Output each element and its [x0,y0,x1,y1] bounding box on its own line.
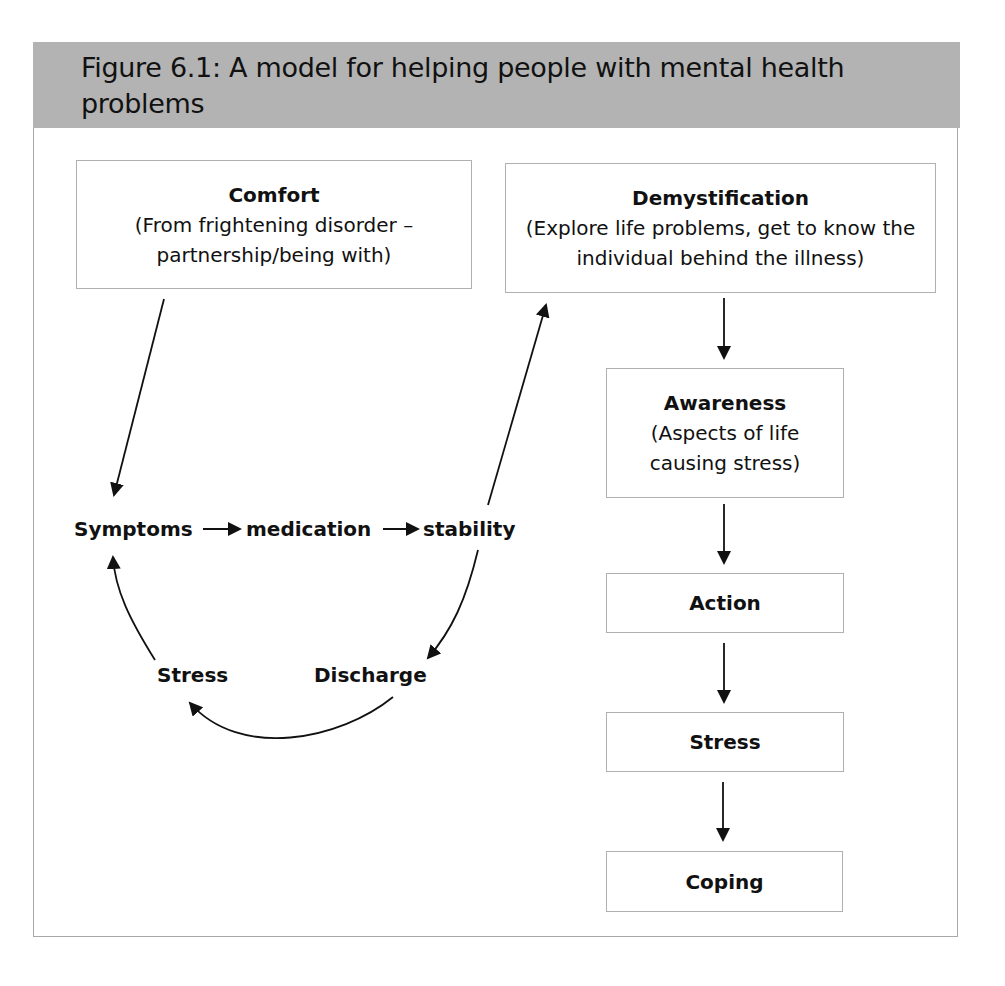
stress-to-symptoms-arrow [113,557,155,660]
arrows-layer [0,0,1005,986]
stability-to-demystification-arrow [488,305,546,505]
comfort-to-symptoms-arrow [114,299,164,495]
discharge-to-stress-arrow [190,697,393,738]
stability-to-discharge-arrow [428,550,478,658]
